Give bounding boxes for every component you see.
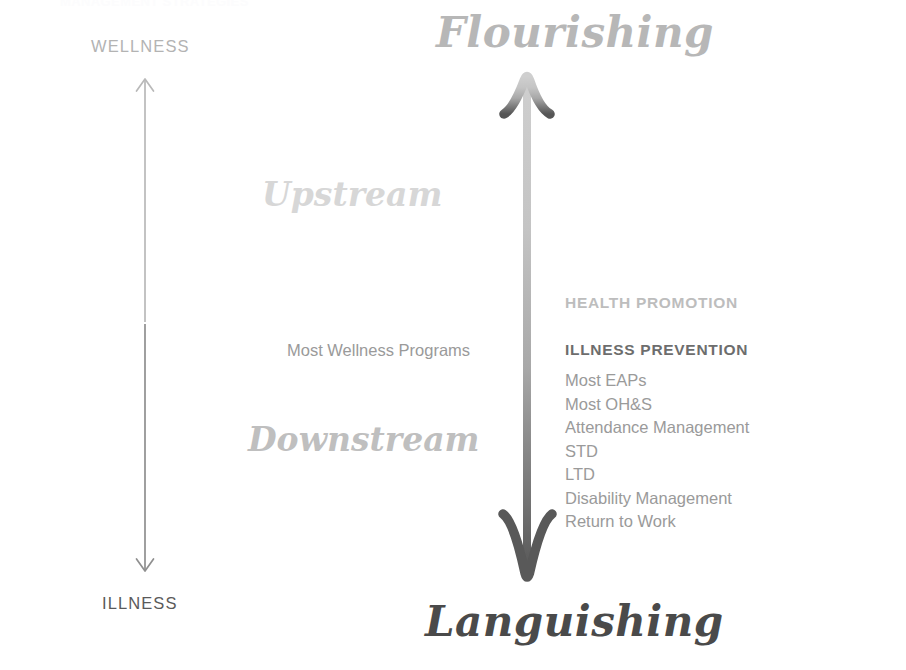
- arrow-up-icon: [123, 72, 167, 322]
- list-item: STD: [565, 440, 885, 464]
- upstream-zone-label: Upstream: [262, 178, 442, 211]
- divider-dashed-line: [22, 322, 882, 326]
- illness-prevention-band-label: ILLNESS PREVENTION: [565, 341, 748, 359]
- double-headed-vertical-arrow-icon: [484, 62, 574, 592]
- wellness-axis-arrow: [123, 72, 167, 322]
- list-item: Most OH&S: [565, 393, 885, 417]
- list-item: Return to Work: [565, 510, 885, 534]
- list-item: Attendance Management: [565, 416, 885, 440]
- illness-axis-label: ILLNESS: [102, 594, 178, 613]
- list-item: Disability Management: [565, 487, 885, 511]
- illness-axis-arrow: [123, 324, 167, 578]
- downstream-zone-label: Downstream: [248, 423, 480, 456]
- most-wellness-programs-annotation: Most Wellness Programs: [287, 341, 470, 360]
- arrow-down-icon: [123, 324, 167, 578]
- health-promotion-band-label: HEALTH PROMOTION: [565, 294, 738, 312]
- central-continuum-arrow: [484, 62, 574, 592]
- diagram-canvas: MANAGEMENT STRATEGIES WELLNESS ILLNESS: [0, 0, 906, 670]
- cutoff-heading-sliver: MANAGEMENT STRATEGIES: [60, 0, 249, 9]
- wellness-axis-label: WELLNESS: [91, 37, 190, 56]
- languishing-pole-label: Languishing: [425, 601, 724, 643]
- dashed-line-icon: [22, 332, 882, 336]
- list-item: LTD: [565, 463, 885, 487]
- list-item: Most EAPs: [565, 369, 885, 393]
- program-list: Most EAPs Most OH&S Attendance Managemen…: [565, 369, 885, 534]
- flourishing-pole-label: Flourishing: [436, 12, 714, 54]
